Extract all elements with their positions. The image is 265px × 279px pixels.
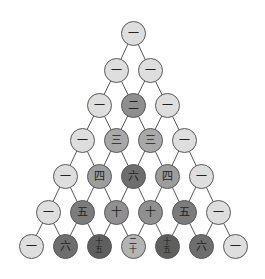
node-label: 十 bbox=[145, 207, 156, 218]
triangle-node: 六 bbox=[189, 234, 214, 259]
triangle-node: 二 bbox=[121, 93, 146, 118]
node-label: 一 bbox=[230, 241, 241, 252]
node-label: 一 bbox=[94, 100, 105, 111]
node-label: 五 bbox=[77, 207, 88, 218]
triangle-node: 一 bbox=[121, 21, 146, 46]
triangle-node: 十五 bbox=[87, 234, 112, 259]
node-label: 一 bbox=[111, 65, 122, 76]
triangle-node: 二十 bbox=[121, 234, 146, 259]
triangle-node: 一 bbox=[19, 234, 44, 259]
triangle-node: 一 bbox=[223, 234, 248, 259]
node-label: 六 bbox=[60, 241, 71, 252]
node-label: 一 bbox=[196, 171, 207, 182]
node-label: 十 bbox=[111, 207, 122, 218]
triangle-node: 一 bbox=[155, 93, 180, 118]
triangle-node: 四 bbox=[155, 164, 180, 189]
triangle-node: 四 bbox=[87, 164, 112, 189]
triangle-node: 六 bbox=[53, 234, 78, 259]
node-label: 二十 bbox=[129, 238, 137, 254]
triangle-node: 五 bbox=[172, 200, 197, 225]
node-label: 一 bbox=[145, 65, 156, 76]
triangle-node: 一 bbox=[104, 58, 129, 83]
node-label: 一 bbox=[26, 241, 37, 252]
node-label: 四 bbox=[162, 171, 173, 182]
node-label: 六 bbox=[128, 171, 139, 182]
triangle-node: 十 bbox=[104, 200, 129, 225]
triangle-node: 十 bbox=[138, 200, 163, 225]
triangle-node: 一 bbox=[172, 128, 197, 153]
triangle-node: 一 bbox=[70, 128, 95, 153]
node-label: 二 bbox=[128, 100, 139, 111]
node-label: 一 bbox=[77, 135, 88, 146]
triangle-node: 六 bbox=[121, 164, 146, 189]
node-label: 十五 bbox=[95, 238, 103, 254]
node-label: 一 bbox=[60, 171, 71, 182]
triangle-node: 一 bbox=[138, 58, 163, 83]
pascal-triangle-diagram: 一一一一二一一三三一一四六四一一五十十五一一六十五二十十五六一 bbox=[0, 0, 265, 279]
triangle-node: 三 bbox=[104, 128, 129, 153]
triangle-node: 一 bbox=[53, 164, 78, 189]
node-label: 四 bbox=[94, 171, 105, 182]
node-label: 十五 bbox=[163, 238, 171, 254]
node-label: 一 bbox=[162, 100, 173, 111]
node-label: 一 bbox=[179, 135, 190, 146]
node-label: 一 bbox=[128, 28, 139, 39]
triangle-node: 十五 bbox=[155, 234, 180, 259]
triangle-node: 三 bbox=[138, 128, 163, 153]
triangle-node: 一 bbox=[87, 93, 112, 118]
node-label: 三 bbox=[145, 135, 156, 146]
triangle-node: 五 bbox=[70, 200, 95, 225]
triangle-node: 一 bbox=[206, 200, 231, 225]
node-label: 一 bbox=[43, 207, 54, 218]
node-label: 一 bbox=[213, 207, 224, 218]
node-label: 六 bbox=[196, 241, 207, 252]
triangle-node: 一 bbox=[36, 200, 61, 225]
node-label: 三 bbox=[111, 135, 122, 146]
triangle-node: 一 bbox=[189, 164, 214, 189]
node-label: 五 bbox=[179, 207, 190, 218]
